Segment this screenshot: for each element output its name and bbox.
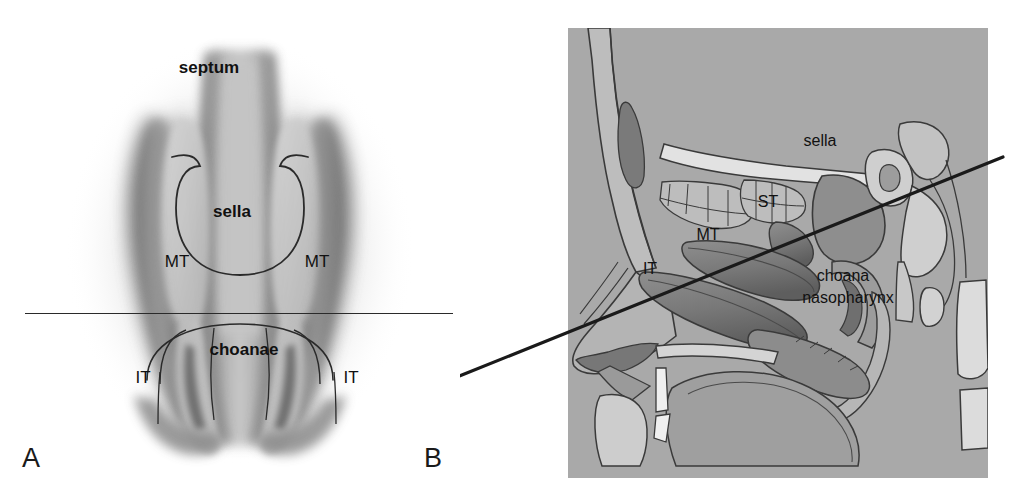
- vertebra-c2: [960, 388, 988, 450]
- pituitary-gland: [880, 165, 901, 192]
- axial-reference-line: [25, 313, 453, 314]
- upper-incisor: [656, 368, 668, 412]
- vertebra-c1: [957, 280, 988, 379]
- panel-b-illustration: [460, 0, 1017, 504]
- mandible: [595, 395, 647, 466]
- vertebra-process: [920, 288, 944, 327]
- panel-a-coronal-view: septum sella MT MT choanae IT IT A: [0, 0, 460, 504]
- panel-label-a: A: [22, 443, 41, 474]
- panel-a-illustration: [0, 0, 460, 504]
- panel-label-b: B: [424, 443, 443, 474]
- panel-b-sagittal-view: sella ST MT IT choana nasopharynx B: [460, 0, 1017, 504]
- anatomical-figure: septum sella MT MT choanae IT IT A: [0, 0, 1017, 504]
